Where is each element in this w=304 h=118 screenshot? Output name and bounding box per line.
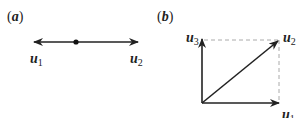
label-u1-a: u1	[30, 51, 43, 68]
panel-a-label: (a)	[7, 9, 24, 25]
label-u3-b: u3	[186, 30, 199, 47]
label-u1-b: u1	[282, 107, 295, 118]
label-u2-b: u2	[283, 30, 296, 47]
label-u2-a: u2	[130, 51, 143, 68]
vector-u2-b	[202, 41, 278, 103]
panel-b-label: (b)	[157, 9, 174, 25]
origin-point	[73, 39, 78, 44]
panel-a: (a) u1 u2	[7, 9, 143, 68]
vector-diagram: (a) u1 u2 (b) u3 u2 u1	[0, 0, 304, 118]
panel-b: (b) u3 u2 u1	[157, 9, 296, 118]
